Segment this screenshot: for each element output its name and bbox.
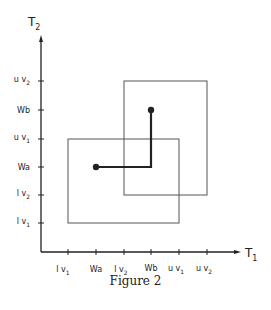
y-tick-labels: u v2 Wb u v1 Wa l v2 l v1 — [14, 75, 30, 228]
y-axis — [39, 35, 43, 252]
point-wa — [93, 164, 99, 170]
figure-caption: Figure 2 — [0, 274, 271, 288]
figure-diagram: l v1 Wa l v2 Wb u v1 u v2 u v2 Wb u v1 W… — [0, 0, 271, 310]
point-wb — [148, 107, 154, 113]
y-axis-arrow-icon — [39, 35, 43, 42]
x-tick-wb: Wb — [145, 264, 158, 273]
x-axis — [41, 250, 241, 254]
x-axis-arrow-icon — [234, 250, 241, 254]
y-tick-lv2: l v2 — [17, 189, 31, 200]
y-tick-uv1: u v1 — [14, 133, 30, 144]
x-axis-label: T1 — [244, 246, 257, 263]
box-v2 — [124, 81, 207, 195]
y-tick-uv2: u v2 — [14, 75, 30, 86]
y-tick-wa: Wa — [18, 163, 30, 172]
y-tick-wb: Wb — [17, 106, 30, 115]
y-axis-label: T2 — [27, 15, 40, 32]
x-tick-wa: Wa — [90, 265, 102, 274]
y-tick-lv1: l v1 — [17, 217, 31, 228]
